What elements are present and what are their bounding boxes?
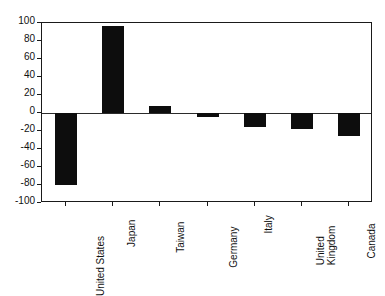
y-tick-label: 20: [24, 87, 35, 99]
x-axis-label-line: Germany: [227, 227, 238, 268]
x-axis-label-line: Japan: [126, 220, 137, 247]
x-axis-label: Germany: [227, 227, 238, 268]
bar: [55, 113, 77, 185]
x-axis-label-line: Canada: [366, 224, 377, 259]
y-tick-label: 100: [18, 15, 35, 27]
x-axis-label: United States: [95, 236, 106, 296]
x-axis-label: UnitedKingdom: [315, 226, 337, 265]
bar: [291, 113, 313, 129]
x-axis-label-line: Taiwan: [175, 222, 186, 253]
bar: [338, 113, 360, 136]
bar: [102, 26, 124, 113]
x-axis-label: Japan: [126, 220, 137, 247]
x-axis-label-line: Kingdom: [326, 226, 337, 265]
y-tick-label: -100: [15, 195, 35, 207]
y-axis: 100806040200-20-40-60-80-100: [0, 22, 41, 202]
x-axis-labels: United StatesJapanTaiwanGermanyItalyUnit…: [41, 206, 372, 282]
y-tick-label: 40: [24, 69, 35, 81]
x-axis-label-line: United States: [95, 236, 106, 296]
bar: [149, 106, 171, 113]
y-tick-label: -60: [21, 159, 35, 171]
y-tick-label: 80: [24, 33, 35, 45]
bar: [244, 113, 266, 127]
x-axis-label-line: United: [315, 226, 326, 265]
x-axis-label: Taiwan: [175, 222, 186, 253]
y-tick-label: 0: [29, 105, 35, 117]
x-axis-label: Canada: [366, 224, 377, 259]
y-tick-label: -80: [21, 177, 35, 189]
y-tick-label: 60: [24, 51, 35, 63]
bar: [197, 113, 219, 117]
plot-area: [41, 22, 372, 202]
y-tick-label: -20: [21, 123, 35, 135]
y-tick-label: -40: [21, 141, 35, 153]
x-axis-label-line: Italy: [263, 215, 274, 233]
x-axis-label: Italy: [263, 215, 274, 233]
